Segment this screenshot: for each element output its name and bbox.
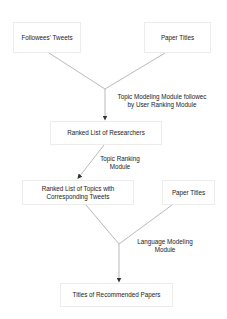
node-recommended-papers: Titles of Recommended Papers bbox=[60, 283, 173, 307]
node-ranked-researchers: Ranked List of Researchers bbox=[50, 121, 162, 145]
edge-label-line: by User Ranking Module bbox=[106, 101, 218, 109]
node-followees-tweets: Followees' Tweets bbox=[13, 22, 81, 53]
edge-label-line: Topic Modeling Module followec bbox=[106, 93, 218, 101]
node-label: Followees' Tweets bbox=[21, 34, 72, 42]
node-label-line: Ranked List of Topics with bbox=[42, 185, 115, 193]
edge-label-line: Language Modeling bbox=[127, 238, 203, 246]
node-paper-titles-bottom: Paper Titles bbox=[162, 180, 215, 205]
node-label: Paper Titles bbox=[161, 34, 194, 42]
edge-label-language-modeling: Language Modeling Module bbox=[127, 238, 203, 253]
edge-label-topic-ranking: Topic Ranking Module bbox=[94, 155, 146, 170]
edge-label-line: Module bbox=[94, 163, 146, 171]
flowchart-diagram: Followees' Tweets Paper Titles Topic Mod… bbox=[0, 0, 227, 319]
node-label: Paper Titles bbox=[172, 189, 205, 197]
edge-followees-to-junction bbox=[49, 53, 105, 89]
edge-label-topic-modeling: Topic Modeling Module followec by User R… bbox=[106, 93, 218, 108]
edge-topics-to-junction bbox=[86, 205, 119, 244]
edge-papertitles-to-junction bbox=[105, 53, 165, 89]
node-label-line: Corresponding Tweets bbox=[47, 193, 110, 201]
node-ranked-topics: Ranked List of Topics with Corresponding… bbox=[22, 180, 134, 205]
edge-label-line: Topic Ranking bbox=[94, 155, 146, 163]
node-paper-titles-top: Paper Titles bbox=[144, 22, 211, 53]
node-label: Titles of Recommended Papers bbox=[73, 291, 161, 299]
edge-label-line: Module bbox=[127, 246, 203, 254]
node-label: Ranked List of Researchers bbox=[67, 129, 145, 137]
